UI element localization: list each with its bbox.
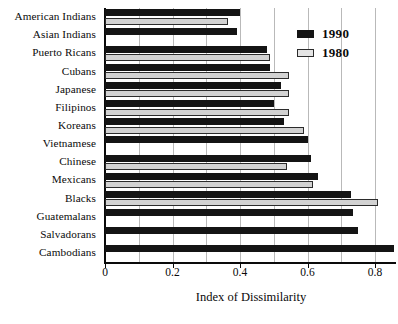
category-label: Cambodians	[39, 247, 96, 258]
category-label: American Indians	[15, 11, 96, 22]
bar-1990	[105, 118, 284, 125]
bar-1980	[105, 72, 289, 79]
bar-1990	[105, 100, 274, 107]
category-label: Guatemalans	[36, 211, 96, 222]
category-label: Chinese	[59, 156, 96, 167]
bar-group	[105, 117, 375, 135]
bar-group	[105, 81, 375, 99]
category-label: Japanese	[55, 84, 96, 95]
bar-1990	[105, 173, 318, 180]
bar-1990	[105, 191, 351, 198]
bar-1990	[105, 28, 237, 35]
category-label: Mexicans	[52, 174, 96, 185]
category-label: Koreans	[58, 120, 96, 131]
x-axis-tick-label: 0.8	[368, 266, 382, 278]
bar-group	[105, 99, 375, 117]
bar-group	[105, 135, 375, 153]
legend-label-1990: 1990	[322, 26, 349, 42]
category-label: Salvadorans	[40, 229, 96, 240]
bar-1980	[105, 199, 378, 206]
bar-group	[105, 208, 375, 226]
bar-group	[105, 226, 375, 244]
bar-1990	[105, 64, 270, 71]
category-label: Asian Indians	[33, 29, 96, 40]
legend-swatch-1980-icon	[297, 49, 314, 57]
bar-1990	[105, 227, 358, 234]
bar-1990	[105, 136, 308, 143]
category-axis-labels: American IndiansAsian IndiansPuerto Rica…	[0, 8, 100, 262]
x-axis-title: Index of Dissimilarity	[105, 290, 397, 305]
bar-1990	[105, 245, 394, 252]
bar-1990	[105, 209, 353, 216]
bar-group	[105, 189, 375, 207]
category-label: Cubans	[62, 66, 96, 77]
bar-1980	[105, 127, 304, 134]
category-label: Puerto Ricans	[32, 47, 96, 58]
bar-1980	[105, 181, 313, 188]
bar-group	[105, 153, 375, 171]
bar-group	[105, 171, 375, 189]
bar-1980	[105, 90, 289, 97]
x-axis-tick-label: 0.6	[300, 266, 314, 278]
bar-1990	[105, 82, 281, 89]
x-axis-tick-label: 0	[102, 266, 108, 278]
legend: 1990 1980	[297, 26, 349, 64]
legend-swatch-1990-icon	[297, 30, 314, 38]
bar-group	[105, 8, 375, 26]
x-axis-tick-label: 0.4	[233, 266, 247, 278]
category-label: Vietnamese	[43, 138, 96, 149]
bar-1980	[105, 109, 289, 116]
legend-item-1990: 1990	[297, 26, 349, 42]
bar-1990	[105, 9, 240, 16]
gridline	[375, 8, 376, 262]
bar-1980	[105, 18, 228, 25]
category-label: Blacks	[65, 193, 96, 204]
bar-1980	[105, 54, 270, 61]
bar-1990	[105, 155, 311, 162]
legend-item-1980: 1980	[297, 45, 349, 61]
bar-group	[105, 244, 375, 262]
bar-1990	[105, 46, 267, 53]
bar-chart: American IndiansAsian IndiansPuerto Rica…	[0, 0, 398, 324]
bar-1980	[105, 163, 287, 170]
legend-label-1980: 1980	[322, 45, 349, 61]
x-axis-line	[104, 262, 396, 264]
category-label: Filipinos	[55, 102, 96, 113]
x-axis-tick-label: 0.2	[165, 266, 179, 278]
bar-group	[105, 62, 375, 80]
